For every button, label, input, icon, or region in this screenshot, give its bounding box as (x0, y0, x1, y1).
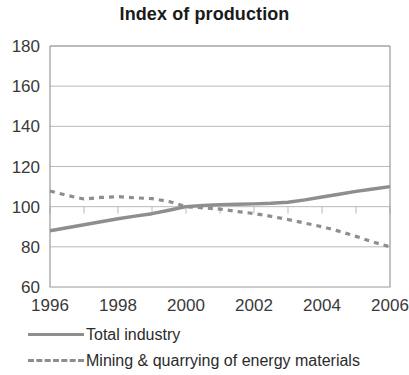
series-line-1 (50, 191, 390, 247)
svg-text:1998: 1998 (99, 296, 137, 315)
chart-legend: Total industry Mining & quarrying of ene… (26, 322, 409, 374)
legend-item-total-industry: Total industry (26, 322, 409, 348)
svg-text:2000: 2000 (167, 296, 205, 315)
svg-text:120: 120 (12, 158, 40, 177)
y-axis-labels: 6080100120140160180 (12, 37, 40, 297)
svg-text:100: 100 (12, 198, 40, 217)
svg-text:2006: 2006 (371, 296, 409, 315)
svg-text:80: 80 (21, 238, 40, 257)
svg-text:2004: 2004 (303, 296, 341, 315)
legend-label-total-industry: Total industry (86, 326, 180, 344)
svg-text:140: 140 (12, 117, 40, 136)
svg-text:60: 60 (21, 278, 40, 297)
data-series-group (50, 187, 390, 247)
chart-figure: Index of production 6080100120140160180 … (0, 0, 409, 375)
svg-text:160: 160 (12, 77, 40, 96)
legend-label-mining-quarrying: Mining & quarrying of energy materials (86, 352, 360, 370)
svg-text:2002: 2002 (235, 296, 273, 315)
svg-text:1996: 1996 (31, 296, 69, 315)
x-axis-labels: 199619982000200220042006 (31, 296, 409, 315)
legend-key-solid-line-icon (26, 328, 86, 342)
y-gridlines (50, 46, 390, 247)
chart-plot-area: 6080100120140160180 19961998200020022004… (0, 0, 409, 375)
svg-text:180: 180 (12, 37, 40, 56)
legend-item-mining-quarrying: Mining & quarrying of energy materials (26, 348, 409, 374)
legend-key-dashed-line-icon (26, 354, 86, 368)
